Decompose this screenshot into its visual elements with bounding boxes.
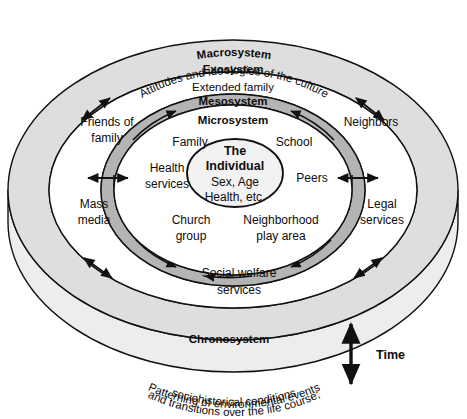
svg-text:services: services [360,213,404,227]
node-family: Family [172,135,207,149]
svg-text:Neighborhood: Neighborhood [243,213,318,227]
svg-text:play area: play area [256,229,306,243]
svg-text:family: family [91,131,122,145]
node-neighbors: Neighbors [344,115,399,129]
svg-text:Individual: Individual [206,159,264,173]
microsystem-label: Microsystem [198,114,268,126]
svg-text:Health, etc.: Health, etc. [205,190,266,204]
time-label: Time [376,348,405,362]
svg-text:group: group [176,229,207,243]
svg-text:services: services [145,177,189,191]
exosystem-label: Exosystem [203,63,264,75]
svg-text:Legal: Legal [367,197,396,211]
mesosystem-label: Mesosystem [198,95,267,107]
svg-text:Mass: Mass [80,197,109,211]
node-peers: Peers [296,171,327,185]
svg-text:Health: Health [150,161,185,175]
svg-text:Friends of: Friends of [80,115,134,129]
node-school: School [276,135,313,149]
diagram-canvas: Time Macrosystem Attitudes and ideologie… [0,0,467,419]
svg-text:Church: Church [172,213,211,227]
ecological-systems-diagram: Time Macrosystem Attitudes and ideologie… [0,0,467,419]
svg-text:Sex, Age: Sex, Age [211,175,259,189]
svg-text:media: media [78,213,111,227]
svg-text:services: services [217,283,261,297]
chronosystem-label: Chronosystem [189,333,270,345]
svg-text:Social welfare: Social welfare [202,266,277,280]
exosystem-description: Extended family [192,81,274,93]
svg-text:The: The [224,144,246,158]
